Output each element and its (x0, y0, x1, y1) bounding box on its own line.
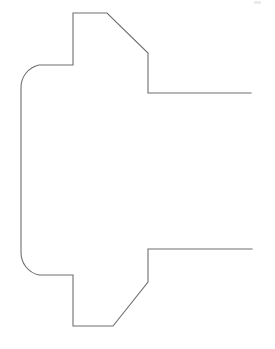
drawing-canvas (0, 0, 275, 349)
scan-speck-artifact (254, 1, 261, 4)
part-outline-path (21, 13, 252, 326)
part-profile-drawing (0, 0, 275, 349)
